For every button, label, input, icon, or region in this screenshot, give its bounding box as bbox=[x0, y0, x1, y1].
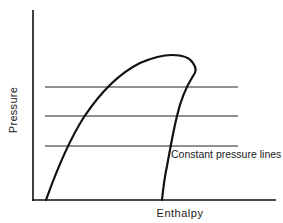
y-axis-label: Pressure bbox=[7, 87, 19, 133]
ph-diagram bbox=[0, 0, 283, 223]
axes bbox=[32, 10, 276, 201]
constant-pressure-lines bbox=[45, 87, 238, 146]
x-axis-label: Enthalpy bbox=[157, 207, 204, 219]
saturation-dome-curve bbox=[46, 55, 196, 200]
constant-pressure-annotation: Constant pressure lines bbox=[171, 148, 281, 160]
